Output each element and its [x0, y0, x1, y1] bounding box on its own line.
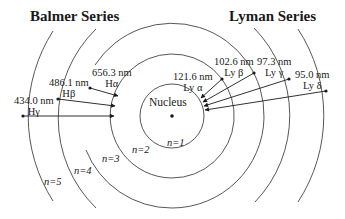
lyman-delta-label: 95.0 nm Ly δ — [295, 69, 329, 91]
lyman-series-title: Lyman Series — [229, 8, 316, 25]
hydrogen-spectral-series-diagram: Balmer Series Lyman Series Nucleus 656.3… — [0, 0, 345, 219]
balmer-gamma-label: 434.0 nm Hγ — [14, 95, 54, 117]
orbit-n4-right — [254, 28, 290, 202]
level-label-n1: n=1 — [167, 137, 185, 148]
level-label-n5: n=5 — [44, 176, 62, 187]
balmer-beta-label: 486.1 nm Hβ — [49, 77, 89, 99]
orbit-n5-right — [298, 29, 324, 202]
level-label-n2: n=2 — [132, 144, 150, 155]
balmer-series-title: Balmer Series — [30, 8, 119, 25]
nucleus-label: Nucleus — [149, 96, 187, 108]
lyman-beta-label: 102.6 nm Ly β — [214, 56, 254, 78]
level-label-n4: n=4 — [74, 165, 92, 176]
balmer-alpha-label: 656.3 nm Hα — [92, 67, 132, 89]
orbit-n4-left — [58, 29, 96, 208]
lyman-gamma-label: 97.3 nm Ly γ — [257, 56, 291, 78]
lyman-alpha-label: 121.6 nm Ly α — [173, 71, 213, 93]
level-label-n3: n=3 — [102, 153, 120, 164]
nucleus-dot — [170, 114, 174, 118]
